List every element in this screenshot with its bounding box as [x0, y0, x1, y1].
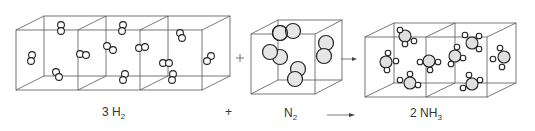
- h2-molecule: [160, 60, 173, 67]
- nh3-molecule: [460, 72, 483, 91]
- n2-molecules: [263, 24, 334, 87]
- nh3-molecule: [448, 44, 466, 67]
- nh3-molecule: [380, 50, 399, 73]
- nh3-molecule: [490, 45, 510, 70]
- h2-molecule: [119, 22, 127, 35]
- label-product-ammonia: 2 NH3: [410, 106, 442, 122]
- nh3-molecule: [417, 55, 441, 73]
- hydrogen-boxes: [16, 16, 230, 90]
- n2-molecule: [273, 24, 301, 41]
- nh3-molecule: [462, 32, 482, 52]
- n2-molecule: [288, 62, 306, 87]
- h2-molecule: [169, 71, 177, 84]
- h2-molecule: [77, 51, 90, 59]
- h2-molecule: [136, 44, 149, 52]
- h2-molecule: [120, 71, 129, 84]
- nh3-molecule: [397, 71, 421, 89]
- nitrogen-box: [251, 20, 342, 94]
- n2-molecule: [317, 36, 334, 64]
- h2-molecules: [28, 22, 215, 84]
- reaction-arrow-bottom: [327, 113, 355, 117]
- h2-molecule: [28, 52, 36, 65]
- n2-molecule: [263, 45, 288, 65]
- label-reactant-hydrogen: 3 H2: [102, 105, 126, 121]
- h2-molecule: [104, 43, 117, 54]
- reaction-arrow-top: [341, 57, 357, 61]
- plus-sign-top: [236, 54, 244, 62]
- h2-molecule: [58, 22, 65, 35]
- h2-molecule: [53, 69, 63, 81]
- label-reactant-nitrogen: N2: [284, 106, 298, 122]
- reaction-diagram: 3 H2 + N2 2 NH3: [0, 0, 535, 131]
- ammonia-boxes: [365, 23, 516, 97]
- plus-sign-bottom: +: [225, 105, 232, 119]
- equation-labels: 3 H2 + N2 2 NH3: [102, 105, 442, 122]
- h2-molecule: [204, 53, 215, 65]
- h2-molecule: [177, 30, 186, 42]
